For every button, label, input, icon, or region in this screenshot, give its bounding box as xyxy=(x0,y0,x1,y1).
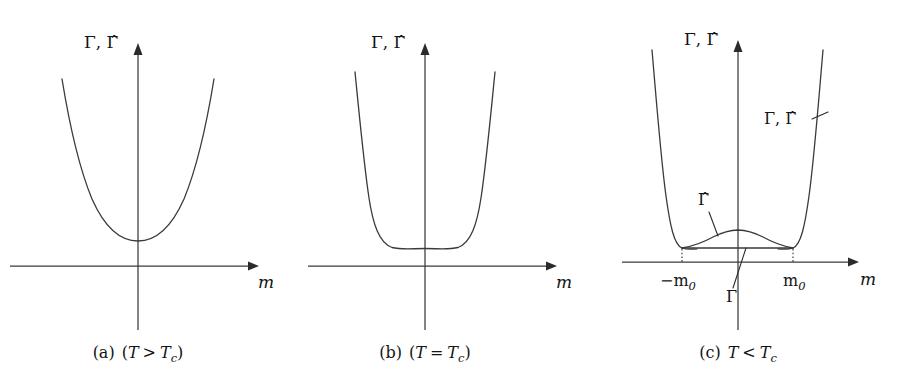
panel-a-x-axis-arrowhead xyxy=(248,262,259,271)
panel-c-curve-outer-left xyxy=(652,50,682,248)
panel-c-caption-index: (c) xyxy=(699,343,720,362)
panel-c-tick-label-left: −m0 xyxy=(660,271,696,293)
panel-b-x-axis-label: m xyxy=(556,272,572,292)
panel-c-leader-outer-branch xyxy=(812,112,828,119)
panel-c-y-axis-arrowhead xyxy=(734,40,743,52)
panel-c-caption: (c)T<Tc xyxy=(699,343,777,365)
panel-b-x-axis-arrowhead xyxy=(546,262,557,271)
panel-c-leader-gamma xyxy=(733,248,746,288)
panel-a-x-axis-label: m xyxy=(258,272,274,292)
panel-c-x-axis-arrowhead xyxy=(848,258,859,267)
panel-b-y-axis-label: Γ, Γ̂ xyxy=(371,32,406,52)
panel-c-y-axis-label: Γ, Γ̂ xyxy=(684,29,719,49)
panel-a: Γ, Γ̂ m (a)(T>Tc) xyxy=(10,32,274,365)
panel-c-label-gamma: Γ xyxy=(726,287,737,306)
panel-b-y-axis-arrowhead xyxy=(421,43,430,55)
panel-a-caption: (a)(T>Tc) xyxy=(93,343,184,365)
panel-a-y-axis-arrowhead xyxy=(134,43,143,55)
panel-b-caption-index: (b) xyxy=(379,343,402,362)
panel-c-leader-gamma-hat xyxy=(709,212,718,236)
panel-b-caption: (b)(T=Tc) xyxy=(379,343,470,365)
panel-b: Γ, Γ̂ m (b)(T=Tc) xyxy=(308,32,572,365)
panel-c-x-axis-label: m xyxy=(860,269,876,289)
panel-c-label-outer-branch: Γ, Γ̂ xyxy=(764,109,796,128)
landau-free-energy-figure: Γ, Γ̂ m (a)(T>Tc) Γ, Γ̂ m (b)(T=Tc) xyxy=(0,0,900,385)
panel-a-caption-index: (a) xyxy=(93,343,115,362)
panel-c-curve-outer-right xyxy=(793,50,823,248)
panel-a-y-axis-label: Γ, Γ̂ xyxy=(84,32,119,52)
panel-c: Γ, Γ̂ Γ̂ Γ −m0 m0 Γ, Γ̂ m (c)T<Tc xyxy=(622,29,876,365)
panel-c-tick-label-right: m0 xyxy=(783,271,806,293)
figure-canvas: Γ, Γ̂ m (a)(T>Tc) Γ, Γ̂ m (b)(T=Tc) xyxy=(0,0,900,385)
panel-c-label-gamma-hat: Γ̂ xyxy=(698,190,709,209)
